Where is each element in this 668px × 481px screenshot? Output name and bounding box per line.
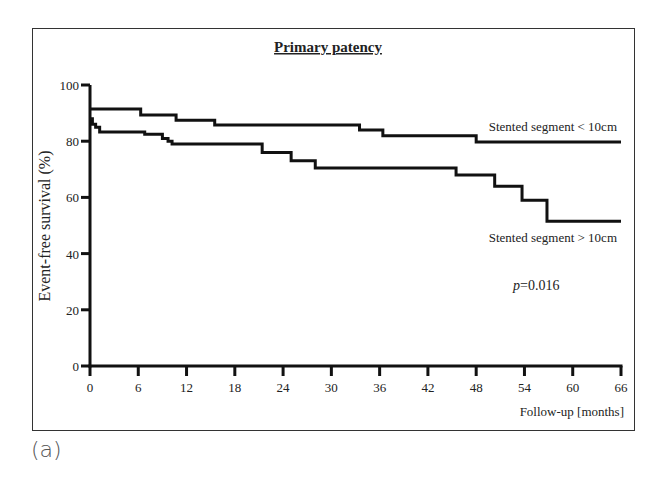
y-tick-label: 80 <box>66 134 79 149</box>
x-tick-label: 36 <box>373 380 387 395</box>
curve-long-segment <box>90 119 621 222</box>
y-tick-label: 0 <box>73 359 80 374</box>
y-tick-label: 100 <box>60 78 80 93</box>
y-tick-label: 20 <box>66 303 79 318</box>
chart-title: Primary patency <box>274 39 382 55</box>
p-value: =0.016 <box>520 278 559 293</box>
x-tick-label: 66 <box>615 380 629 395</box>
series-label-long-segment: Stented segment > 10cm <box>489 230 617 245</box>
panel-label: (a) <box>31 437 62 462</box>
x-tick-label: 0 <box>87 380 94 395</box>
x-tick-label: 12 <box>180 380 193 395</box>
x-tick-label: 42 <box>421 380 434 395</box>
p-symbol: p <box>512 278 520 293</box>
x-tick-label: 30 <box>325 380 338 395</box>
x-tick-label: 6 <box>135 380 142 395</box>
y-axis-label: Event-free survival (%) <box>36 150 54 301</box>
series-label-short-segment: Stented segment < 10cm <box>489 119 617 134</box>
x-tick-label: 24 <box>277 380 291 395</box>
y-tick-label: 40 <box>66 247 79 262</box>
x-tick-label: 18 <box>228 380 241 395</box>
x-axis-label: Follow-up [months] <box>520 404 624 419</box>
y-tick-label: 60 <box>66 190 79 205</box>
x-tick-label: 48 <box>470 380 483 395</box>
km-survival-plot: Primary patency Event-free survival (%) … <box>0 0 668 481</box>
p-value-annotation: p=0.016 <box>512 278 559 293</box>
x-tick-label: 54 <box>518 380 532 395</box>
x-tick-label: 60 <box>566 380 579 395</box>
